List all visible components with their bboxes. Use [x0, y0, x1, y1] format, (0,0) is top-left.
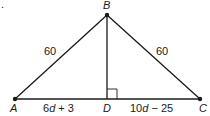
segment-AD-expression: 6d + 3 — [43, 102, 74, 114]
rest: − 25 — [148, 102, 173, 114]
right-angle-marker — [107, 89, 117, 99]
segment-AB — [15, 15, 107, 99]
point-A-dot — [13, 97, 17, 101]
rest: + 3 — [55, 102, 74, 114]
point-C-label: C — [199, 102, 207, 114]
item-marker: . — [1, 0, 4, 10]
segment-BC-length: 60 — [156, 45, 168, 57]
segment-AB-length: 60 — [44, 45, 56, 57]
triangle-diagram: . A B D C 60 60 6d + 3 10d − 25 — [0, 0, 210, 116]
point-B-label: B — [103, 0, 110, 11]
coef: 10 — [130, 102, 142, 114]
point-B-dot — [105, 13, 109, 17]
point-C-dot — [198, 97, 202, 101]
point-A-label: A — [9, 102, 17, 114]
segment-DC-expression: 10d − 25 — [130, 102, 173, 114]
point-D-label: D — [103, 102, 111, 114]
segment-BC — [107, 15, 200, 99]
